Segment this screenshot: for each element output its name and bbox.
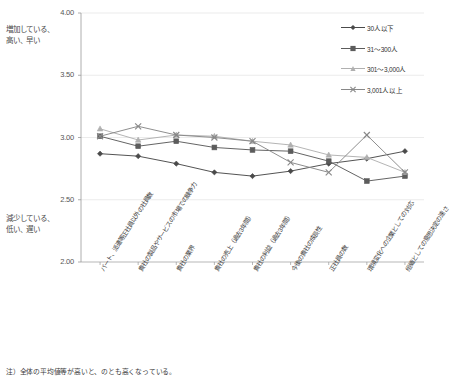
legend-marker-diamond-icon	[341, 27, 365, 28]
y-axis-tick-label: 4.00	[44, 8, 74, 17]
data-point-square	[174, 139, 179, 144]
legend-label: 3,001人以上	[367, 85, 403, 95]
legend-marker-triangle-icon	[341, 68, 365, 69]
data-point-square	[326, 159, 331, 164]
data-point-square	[136, 144, 141, 149]
legend-label: 31～300人	[367, 44, 398, 54]
data-point-square	[364, 179, 369, 184]
legend-label: 30人以下	[367, 23, 394, 33]
legend-label: 301～3,000人	[367, 64, 406, 74]
legend-marker-cross-icon	[341, 89, 365, 90]
y-axis-tick-label: 2.00	[44, 257, 74, 266]
data-point-square	[250, 148, 255, 153]
data-point-square	[212, 145, 217, 150]
y-axis-tick-label: 2.50	[44, 195, 74, 204]
data-point-square	[288, 149, 293, 154]
chart-footnote: 注）全体の平均値等が高いと、のとも高くなっている。	[6, 366, 176, 376]
y-axis-tick-label: 3.50	[44, 70, 74, 79]
legend-marker-square-icon	[341, 48, 365, 49]
y-axis-tick-label: 3.00	[44, 133, 74, 142]
